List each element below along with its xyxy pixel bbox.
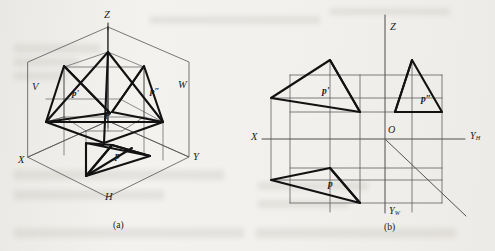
plane-v-outline: [28, 27, 108, 157]
panel-a-label-y: Y: [193, 152, 199, 163]
panel-b-label-z: Z: [390, 22, 396, 33]
panel-a-label-p-prime: p': [72, 89, 79, 98]
figure-page: Z V W H X Y p' p″ P p (a) Z X O: [0, 0, 495, 251]
panel-a-caption: (a): [113, 220, 124, 230]
projection-p-prime-edge: [64, 66, 110, 113]
panel-b-caption: (b): [384, 222, 395, 232]
panel-b-label-y-w: YW: [389, 206, 400, 216]
panel-a-label-p-dprime: p″: [150, 87, 159, 96]
panel-b-label-y-h-sub: H: [476, 134, 480, 141]
panel-b-label-x: X: [251, 132, 257, 143]
panel-b-label-y-h-letter: Y: [470, 130, 476, 141]
panel-a-label-p: p: [115, 152, 120, 162]
panel-a-label-w: W: [178, 80, 187, 91]
panel-b-label-y-w-letter: Y: [389, 205, 395, 216]
panel-a-label-v: V: [32, 82, 38, 93]
panel-a-label-z: Z: [104, 10, 110, 21]
panel-b-label-p-prime: p': [322, 87, 329, 97]
panel-a-drawing: [0, 0, 495, 251]
panel-a-label-P: P: [104, 111, 110, 122]
panel-b-label-y-w-sub: W: [395, 209, 400, 216]
panel-b-label-o: O: [388, 125, 395, 135]
vertical-drop-lines: [64, 52, 163, 160]
panel-b-label-y-h: YH: [470, 131, 480, 141]
panel-a-label-h: H: [105, 192, 113, 203]
panel-b-label-p: p: [328, 180, 333, 190]
panel-b-label-p-dprime: p″: [421, 95, 431, 105]
plane-h-outline: [28, 121, 189, 197]
projection-p-dprime-edge: [112, 66, 144, 112]
panel-a-label-x: X: [18, 155, 24, 166]
